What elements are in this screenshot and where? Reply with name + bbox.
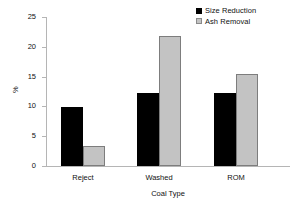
plot-area: 0510152025 RejectWashedROM [46, 17, 290, 167]
bar-reject-size-reduction[interactable] [61, 107, 83, 166]
bar-chart: Size Reduction Ash Removal % 0510152025 … [0, 0, 301, 207]
bar-group-reject [61, 17, 105, 166]
x-axis-label-reject: Reject [43, 173, 123, 182]
y-tick-label-15: 15 [28, 72, 36, 81]
bars-layer [46, 17, 290, 167]
bar-washed-ash-removal[interactable] [159, 36, 181, 166]
bar-reject-ash-removal[interactable] [83, 146, 105, 166]
x-axis-title: Coal Type [46, 189, 290, 198]
legend-swatch-size-reduction-icon [196, 8, 202, 14]
bar-group-washed [137, 17, 181, 166]
bar-rom-ash-removal[interactable] [236, 74, 258, 166]
bar-group-rom [214, 17, 258, 166]
y-tick-label-25: 25 [28, 12, 36, 21]
y-axis-title: % [11, 86, 20, 93]
bar-rom-size-reduction[interactable] [214, 93, 236, 166]
x-axis-label-washed: Washed [119, 173, 199, 182]
y-tick-label-20: 20 [28, 42, 36, 51]
y-tick-label-0: 0 [32, 161, 36, 170]
y-tick-label-5: 5 [32, 131, 36, 140]
x-axis-label-rom: ROM [196, 173, 276, 182]
bar-washed-size-reduction[interactable] [137, 93, 159, 166]
legend-label-size-reduction: Size Reduction [205, 7, 256, 15]
legend-item-size-reduction: Size Reduction [196, 7, 256, 15]
y-tick-label-10: 10 [28, 101, 36, 110]
